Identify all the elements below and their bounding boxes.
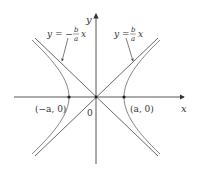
svg-text:x: x	[81, 29, 86, 39]
svg-text:b: b	[74, 26, 79, 34]
vertex-right-label: (a, 0)	[130, 104, 154, 114]
svg-text:x: x	[138, 29, 143, 39]
svg-text:y = −: y = −	[46, 29, 73, 39]
hyperbola-diagram: x y 0 (−a, 0) (a, 0) y = − b a x y = b a…	[0, 0, 200, 175]
vertex-left-label: (−a, 0)	[35, 104, 66, 114]
svg-text:y =: y =	[113, 29, 130, 39]
origin-point	[95, 96, 98, 99]
svg-text:b: b	[131, 26, 136, 34]
svg-text:a: a	[131, 35, 135, 43]
svg-text:a: a	[74, 35, 78, 43]
vertex-left-point	[67, 95, 70, 98]
asymptote-negative-label: y = − b a x	[46, 26, 86, 43]
origin-label: 0	[87, 108, 93, 118]
leader-arrow-left	[62, 38, 68, 61]
vertex-right-point	[122, 95, 125, 98]
asymptote-positive-label: y = b a x	[113, 26, 143, 43]
x-axis-label: x	[181, 103, 187, 114]
y-axis-label: y	[85, 14, 92, 25]
